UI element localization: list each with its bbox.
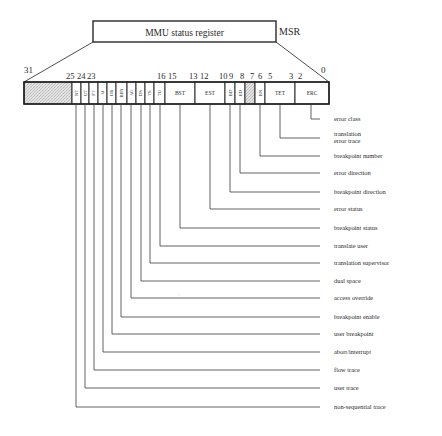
field-reserved — [24, 82, 72, 104]
legend-label: breakpoint direction — [334, 188, 386, 195]
legend-label: error status — [334, 205, 363, 212]
field-ao: AO — [127, 82, 136, 104]
legend-label: error direction — [334, 169, 372, 176]
legend-label: breakpoint status — [334, 224, 378, 231]
bit-number: 5 — [268, 71, 272, 81]
legend-label: translation supervisor — [334, 259, 390, 266]
field-erc: ERC — [295, 82, 329, 104]
legend-label: user breakpoint — [334, 330, 374, 337]
field-abbr: BEN — [119, 88, 124, 98]
msr-diagram: MMU status register MSR 31 0 25242316151… — [0, 0, 442, 436]
bit-label-msb: 31 — [24, 65, 33, 75]
field-reserved — [245, 82, 255, 104]
bit-number: 3 — [289, 71, 293, 81]
bit-number: 7 — [250, 71, 254, 81]
field-abbr: FT — [91, 90, 96, 96]
field-abbr: BST — [175, 90, 186, 96]
legend-label: dual space — [334, 277, 361, 284]
bit-number: 23 — [87, 71, 96, 81]
field-ben: BEN — [116, 82, 127, 104]
field-ai: AI — [98, 82, 107, 104]
field-legend: error classtranslationerror tracebreakpo… — [334, 115, 390, 410]
leader-line — [210, 104, 320, 209]
register-fields: NTUTFTAIUBBENAODSTSTUBSTESTBDEDBNTETERC — [24, 82, 329, 104]
field-bd: BD — [225, 82, 235, 104]
bit-number: 8 — [240, 71, 244, 81]
field-abbr: BN — [258, 89, 263, 96]
legend-label: error class — [334, 115, 361, 122]
bit-number: 12 — [200, 71, 209, 81]
field-ts: TS — [145, 82, 154, 104]
field-abbr: TU — [157, 89, 162, 96]
legend-label-line2: error trace — [334, 137, 361, 144]
leader-line — [131, 104, 320, 298]
field-tu: TU — [154, 82, 165, 104]
expand-line-right — [276, 42, 329, 82]
bit-label-lsb: 0 — [321, 65, 326, 75]
leader-line — [76, 104, 320, 407]
legend-label: breakpoint enable — [334, 313, 380, 320]
field-abbr: UT — [83, 90, 88, 96]
bit-number: 13 — [189, 71, 198, 81]
field-abbr: UB — [109, 90, 114, 96]
legend-label: breakpoint number — [334, 152, 383, 159]
field-abbr: ED — [238, 89, 243, 96]
field-abbr: TS — [147, 90, 152, 96]
field-ub: UB — [107, 82, 116, 104]
legend-label: abort/interrupt — [334, 348, 371, 355]
leader-line — [112, 104, 320, 334]
bit-number: 2 — [298, 71, 302, 81]
msr-abbrev: MSR — [279, 26, 300, 37]
field-ed: ED — [235, 82, 245, 104]
bit-number: 9 — [229, 71, 233, 81]
legend-label: translate user — [334, 242, 369, 249]
field-ft: FT — [89, 82, 98, 104]
bit-number: 16 — [157, 71, 166, 81]
field-abbr: EST — [205, 90, 215, 96]
field-tet: TET — [265, 82, 295, 104]
field-abbr: NT — [74, 90, 79, 96]
leader-line — [311, 104, 320, 119]
leader-line — [280, 104, 320, 138]
field-abbr: TET — [275, 90, 286, 96]
field-abbr: AO — [129, 89, 134, 96]
legend-label: translation — [334, 130, 362, 137]
field-abbr: ERC — [307, 90, 318, 96]
bit-number: 6 — [258, 71, 262, 81]
field-abbr: BD — [228, 89, 233, 96]
speck: + — [178, 292, 181, 297]
leader-line — [94, 104, 320, 370]
bit-number: 15 — [168, 71, 177, 81]
field-abbr: AI — [100, 90, 105, 95]
bit-number: 10 — [219, 71, 228, 81]
leader-line — [121, 104, 320, 317]
bit-numbers: 25242316151312109876532 — [66, 71, 302, 81]
leader-line — [141, 104, 320, 281]
legend-label: flow trace — [334, 366, 360, 373]
msr-title-box: MMU status register — [93, 21, 276, 42]
msr-title: MMU status register — [145, 28, 224, 38]
legend-label: access override — [334, 294, 373, 301]
field-bn: BN — [255, 82, 265, 104]
field-bst: BST — [165, 82, 195, 104]
bit-number: 25 — [66, 71, 75, 81]
field-nt: NT — [72, 82, 81, 104]
leader-line — [230, 104, 320, 192]
field-ds: DS — [136, 82, 145, 104]
bit-number: 24 — [77, 71, 86, 81]
leader-line — [150, 104, 320, 263]
field-est: EST — [195, 82, 225, 104]
legend-label: user trace — [334, 384, 359, 391]
field-abbr: DS — [138, 90, 143, 96]
field-ut: UT — [81, 82, 89, 104]
leader-lines — [76, 104, 320, 407]
legend-label: non-sequential trace — [334, 403, 386, 410]
